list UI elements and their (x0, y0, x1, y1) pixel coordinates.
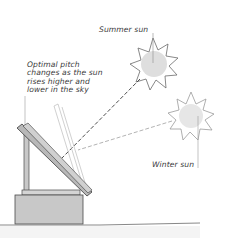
winter-ray (78, 121, 172, 150)
winter-sun-label: Winter sun (152, 161, 194, 169)
summer-sun-label: Summer sun (99, 26, 148, 34)
solar-pitch-diagram: Summer sun Optimal pitch changes as the … (0, 0, 234, 245)
support-box (15, 195, 83, 224)
diagram-canvas (0, 0, 234, 245)
optimal-pitch-label: Optimal pitch changes as the sun rises h… (27, 61, 103, 95)
winter-sun-icon (168, 92, 214, 168)
box-top-plate (22, 190, 80, 195)
